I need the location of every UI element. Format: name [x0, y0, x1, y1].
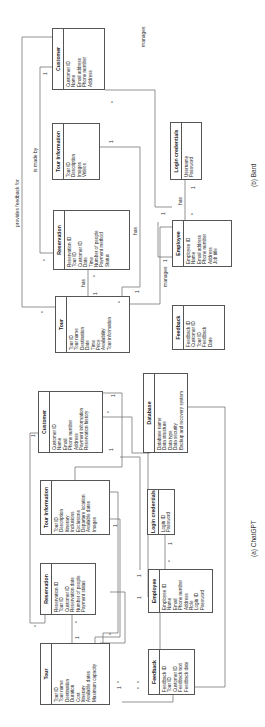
entity-employee: Employee Employee ID Name Email Phone nu… — [148, 569, 213, 613]
attribute: Password — [200, 572, 205, 610]
entity-tour: Tour Tour ID Tour name Destination Durat… — [40, 643, 110, 705]
relation-label-manages: manages — [162, 266, 168, 287]
multiplicity: * — [110, 101, 116, 103]
multiplicity: 1 — [108, 448, 114, 451]
attribute-list: Tour ID Tour name Destination Date Time … — [67, 297, 114, 352]
attribute: Images — [92, 483, 97, 532]
multiplicity: * — [117, 301, 123, 303]
entity-title: Database — [144, 374, 155, 452]
multiplicity: * — [136, 681, 142, 683]
attribute: Videos — [82, 126, 87, 177]
attribute: Status — [105, 213, 110, 267]
entity-feedback: Feedback Feedback ID Tour ID Customer ID… — [148, 649, 195, 695]
attribute: Payment status — [81, 566, 86, 612]
multiplicity: * — [33, 625, 39, 627]
attribute-list: Customer ID Name Email address Phone num… — [64, 29, 95, 89]
attribute: Reservation history — [84, 394, 89, 450]
multiplicity: 1 — [136, 574, 142, 577]
attribute: Tour information — [107, 299, 112, 350]
entity-tour-information: Tour Information Tour ID Description Iti… — [40, 480, 110, 535]
multiplicity: * — [116, 681, 122, 683]
multiplicity: * — [136, 687, 142, 689]
relation-label-has: has — [132, 227, 138, 235]
attribute: Address — [88, 31, 93, 87]
entity-title: Tour Information — [53, 124, 64, 179]
multiplicity: 1 — [162, 259, 168, 262]
entity-title: Feedback — [149, 650, 160, 694]
multiplicity: 1 — [42, 72, 48, 75]
multiplicity: * — [92, 275, 98, 277]
entity-title: Customer — [39, 392, 50, 452]
entity-tour: Tour Tour ID Tour name Destination Date … — [55, 296, 130, 353]
attribute-list: Login ID Password — [159, 490, 174, 534]
multiplicity: * — [106, 411, 112, 413]
attribute: Date — [208, 308, 213, 347]
caption-chatgpt: (a) ChatGPT — [250, 520, 257, 557]
attribute: Backup and recovery system — [179, 376, 184, 450]
multiplicity: 1 — [160, 212, 166, 215]
attribute-list: Feedback ID Tour ID Customer ID Feedback… — [160, 650, 191, 694]
attribute: Maximum capacity — [92, 646, 97, 702]
attribute-list: Feedback ID Customer ID Tour ID Feedback… — [184, 306, 215, 349]
multiplicity: * — [108, 633, 114, 635]
entity-reservation: Reservation Reservation ID Tour ID Custo… — [53, 210, 130, 270]
entity-title: Employee — [173, 221, 184, 266]
entity-title: Feedback — [173, 306, 184, 349]
attribute: Job title — [213, 223, 218, 264]
relationship-lines — [0, 0, 265, 727]
attribute: Feedback date — [184, 652, 189, 692]
multiplicity: 1 — [167, 542, 173, 545]
multiplicity: 1 — [92, 292, 98, 295]
relation-label-has: has — [80, 279, 86, 287]
entity-title: Customer — [53, 29, 64, 89]
attribute: Password — [166, 492, 171, 532]
multiplicity: 1 — [110, 394, 116, 397]
entity-title: Tour — [41, 644, 52, 704]
entity-reservation: Reservation Reservation ID Tour ID Custo… — [40, 563, 96, 615]
multiplicity: 1 — [136, 596, 142, 599]
multiplicity: * — [167, 560, 173, 562]
entity-database: Database Database name Data structure Da… — [143, 373, 188, 453]
multiplicity: 1 — [74, 636, 80, 639]
entity-customer: Customer Customer ID Name Email address … — [52, 28, 105, 90]
entity-title: Tour — [56, 297, 67, 352]
relation-label-has: has — [177, 197, 183, 205]
attribute-list: Tour ID Description Images Videos — [64, 124, 90, 179]
attribute-list: Reservation ID Tour ID Customer ID Date … — [65, 211, 112, 269]
entity-title: Login credentials — [148, 490, 159, 534]
entity-title: Reservation — [41, 564, 52, 614]
multiplicity: 1 — [108, 140, 114, 143]
relation-label-manages: manages — [140, 26, 146, 47]
attribute-list: Customer ID Name Email Phone number Addr… — [50, 392, 92, 452]
multiplicity: * — [74, 621, 80, 623]
attribute-list: Username Password — [182, 123, 197, 179]
multiplicity: * — [190, 213, 196, 215]
multiplicity: 1 — [134, 290, 140, 293]
attribute: Password — [189, 125, 194, 177]
relation-label-provides-feedback: provides feedback for — [14, 179, 20, 227]
multiplicity: * — [40, 311, 46, 313]
entity-feedback: Feedback Feedback ID Customer ID Tour ID… — [172, 305, 225, 350]
caption-bard: (b) Bard — [250, 164, 257, 187]
entity-title: Login credentials — [171, 123, 182, 179]
entity-title: Tour Information — [41, 481, 52, 534]
entity-employee: Employee Employee ID Name Email address … — [172, 220, 232, 267]
multiplicity: 1 — [112, 524, 118, 527]
entity-customer: Customer Customer ID Name Email Phone nu… — [38, 391, 103, 453]
attribute-list: Tour ID Tour name Destination Duration C… — [52, 644, 99, 704]
relation-label-is-made-by: is made by — [32, 148, 38, 172]
entity-tour-information: Tour Information Tour ID Description Ima… — [52, 123, 100, 180]
entity-title: Employee — [149, 570, 160, 612]
attribute-list: Database name Data structure Data type D… — [155, 374, 186, 452]
multiplicity: 1 — [190, 186, 196, 189]
entity-title: Reservation — [54, 211, 65, 269]
er-diagram-figure: Tour Tour ID Tour name Destination Durat… — [0, 0, 265, 727]
attribute-list: Tour ID Description Itinerary Inclusions… — [52, 481, 99, 534]
attribute-list: Employee ID Name Email address Phone num… — [184, 221, 220, 266]
attribute-list: Employee ID Name Email Phone number Addr… — [160, 570, 207, 612]
attribute-list: Reservation ID Tour ID Customer ID Reser… — [52, 564, 88, 614]
entity-login-credentials: Login credentials Username Password — [170, 122, 202, 180]
multiplicity: * — [42, 259, 48, 261]
multiplicity: 1 — [30, 434, 36, 437]
multiplicity: 1 — [116, 686, 122, 689]
